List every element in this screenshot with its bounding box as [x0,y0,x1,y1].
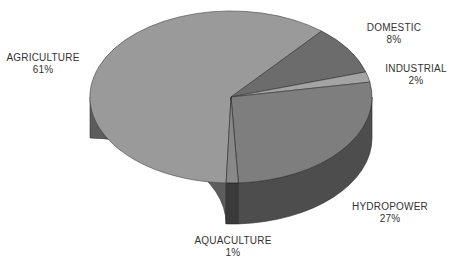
label-hydropower-pct: 27% [348,213,432,225]
label-hydropower: HYDROPOWER 27% [348,201,432,225]
label-aquaculture-pct: 1% [188,247,278,259]
label-domestic-name: DOMESTIC [358,22,430,34]
label-domestic-pct: 8% [358,34,430,46]
slice-side-aquaculture [226,183,238,224]
label-hydropower-name: HYDROPOWER [348,201,432,213]
label-agriculture-pct: 61% [2,64,84,76]
label-agriculture-name: AGRICULTURE [2,52,84,64]
label-industrial-name: INDUSTRIAL [380,63,452,75]
label-industrial-pct: 2% [380,75,452,87]
label-aquaculture: AQUACULTURE 1% [188,235,278,259]
label-industrial: INDUSTRIAL 2% [380,63,452,87]
label-aquaculture-name: AQUACULTURE [188,235,278,247]
label-domestic: DOMESTIC 8% [358,22,430,46]
label-agriculture: AGRICULTURE 61% [2,52,84,76]
